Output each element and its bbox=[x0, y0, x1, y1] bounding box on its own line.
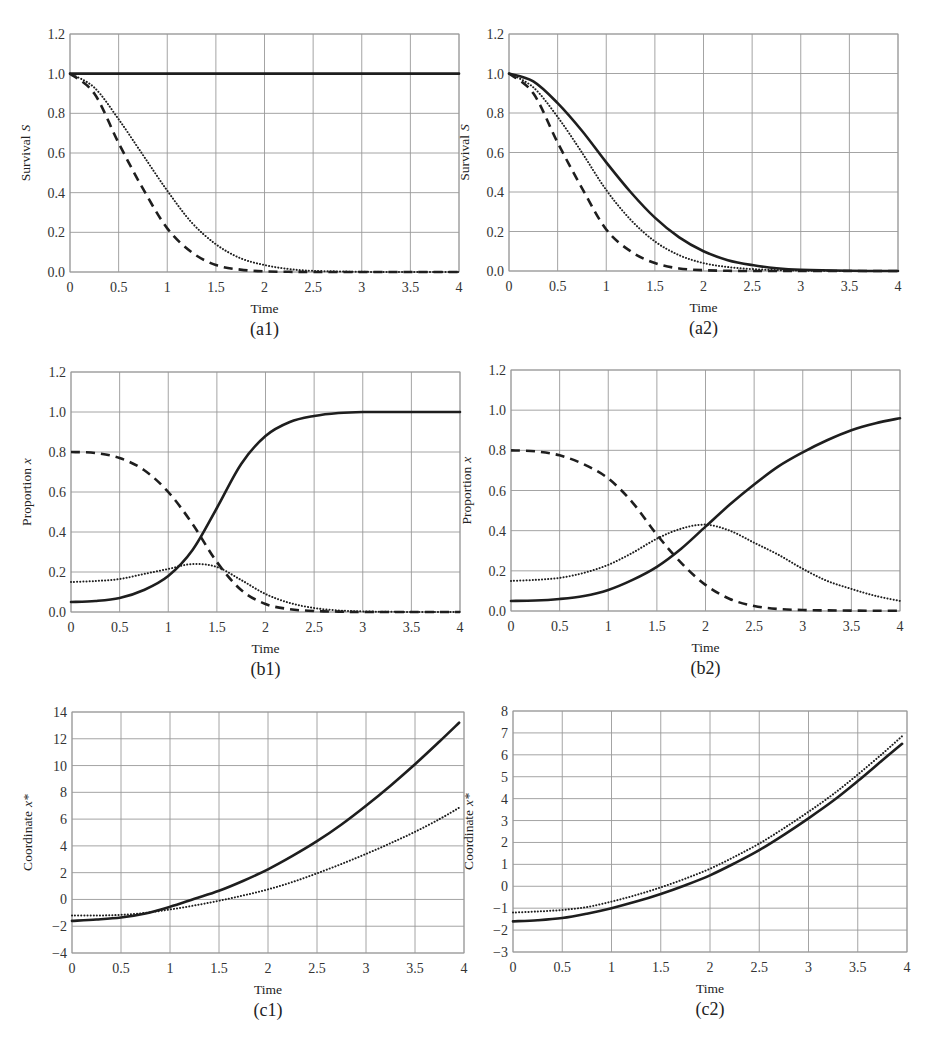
x-tick-label: 2.5 bbox=[308, 961, 326, 976]
y-tick-label: 12 bbox=[53, 732, 67, 747]
y-tick-label: 6 bbox=[501, 748, 508, 763]
x-tick-label: 0.5 bbox=[549, 279, 567, 294]
y-axis-label-variable: x bbox=[459, 457, 474, 464]
x-tick-label: 2 bbox=[700, 279, 707, 294]
y-tick-label: 1.2 bbox=[48, 27, 66, 42]
x-tick-label: 0.5 bbox=[112, 961, 130, 976]
x-tick-label: 2 bbox=[265, 961, 272, 976]
x-tick-label: 3.5 bbox=[849, 960, 867, 975]
x-tick-label: 1 bbox=[603, 279, 610, 294]
chart-c2: 00.511.522.533.54−3−2−1012345678TimeCoor… bbox=[461, 704, 911, 1020]
x-tick-label: 3.5 bbox=[841, 279, 859, 294]
y-tick-label: 0.8 bbox=[48, 106, 66, 121]
x-tick-label: 3 bbox=[805, 960, 812, 975]
figure: 00.511.522.533.540.00.20.40.60.81.01.2Ti… bbox=[0, 0, 931, 1047]
x-tick-label: 3 bbox=[797, 279, 804, 294]
panel-caption: (a1) bbox=[250, 319, 279, 340]
x-tick-label: 3 bbox=[363, 961, 370, 976]
x-tick-label: 3 bbox=[359, 620, 366, 635]
x-tick-label: 0 bbox=[510, 960, 517, 975]
x-tick-label: 4 bbox=[895, 279, 902, 294]
x-tick-label: 1.5 bbox=[210, 961, 228, 976]
y-tick-label: 2 bbox=[60, 866, 67, 881]
y-axis-label-text: Proportion bbox=[19, 468, 34, 526]
y-axis-label-variable: x bbox=[19, 458, 34, 465]
y-tick-label: 0 bbox=[501, 879, 508, 894]
y-axis-label: SurvivalS bbox=[18, 125, 33, 182]
y-tick-label: 1.2 bbox=[489, 363, 507, 378]
y-tick-label: 0.8 bbox=[489, 443, 507, 458]
y-axis-label: Proportionx bbox=[19, 458, 34, 526]
x-tick-label: 4 bbox=[456, 280, 463, 295]
y-tick-label: 6 bbox=[60, 812, 67, 827]
y-axis-label-variable: S bbox=[18, 125, 33, 132]
x-tick-label: 4 bbox=[904, 960, 911, 975]
x-tick-label: 2 bbox=[261, 280, 268, 295]
y-tick-label: −1 bbox=[493, 901, 508, 916]
x-axis-label: Time bbox=[696, 981, 724, 996]
x-tick-label: 1 bbox=[167, 961, 174, 976]
y-tick-label: 0.6 bbox=[49, 485, 67, 500]
y-tick-label: 1.2 bbox=[487, 27, 505, 42]
x-tick-label: 2.5 bbox=[751, 960, 769, 975]
x-tick-label: 1.5 bbox=[648, 619, 666, 634]
y-tick-label: 0.2 bbox=[487, 225, 505, 240]
x-tick-label: 3 bbox=[358, 280, 365, 295]
y-tick-label: 7 bbox=[501, 726, 508, 741]
chart-a2: 00.511.522.533.540.00.20.40.60.81.01.2Ti… bbox=[457, 27, 902, 339]
y-tick-label: 0.6 bbox=[48, 146, 66, 161]
x-tick-label: 1 bbox=[164, 280, 171, 295]
y-tick-label: 0.0 bbox=[489, 604, 507, 619]
y-tick-label: 0.4 bbox=[487, 185, 505, 200]
y-axis-label-variable: S bbox=[457, 124, 472, 131]
x-tick-label: 2.5 bbox=[304, 280, 322, 295]
y-tick-label: 1.2 bbox=[49, 365, 67, 380]
y-tick-label: 0.2 bbox=[48, 225, 66, 240]
y-tick-label: 1.0 bbox=[48, 67, 66, 82]
x-tick-label: 3.5 bbox=[843, 619, 861, 634]
y-tick-label: 0.8 bbox=[49, 445, 67, 460]
y-tick-label: 5 bbox=[501, 770, 508, 785]
y-axis-label-text: Survival bbox=[457, 135, 472, 181]
y-tick-label: 8 bbox=[60, 785, 67, 800]
x-tick-label: 0.5 bbox=[111, 620, 129, 635]
x-tick-label: 3 bbox=[799, 619, 806, 634]
x-tick-label: 0 bbox=[506, 279, 513, 294]
y-tick-label: 0.4 bbox=[489, 524, 507, 539]
y-tick-label: 4 bbox=[501, 792, 508, 807]
y-tick-label: −4 bbox=[52, 946, 67, 961]
x-axis-label: Time bbox=[689, 300, 717, 315]
y-axis-label-text: Coordinate bbox=[20, 811, 35, 871]
y-tick-label: 0.6 bbox=[487, 146, 505, 161]
y-tick-label: 8 bbox=[501, 704, 508, 719]
x-tick-label: 1 bbox=[165, 620, 172, 635]
chart-a1: 00.511.522.533.540.00.20.40.60.81.01.2Ti… bbox=[18, 27, 463, 340]
y-axis-label-text: Survival bbox=[18, 135, 33, 181]
x-tick-label: 2.5 bbox=[743, 279, 761, 294]
y-tick-label: 10 bbox=[53, 759, 67, 774]
y-tick-label: 0.2 bbox=[49, 565, 67, 580]
x-tick-label: 4 bbox=[897, 619, 904, 634]
x-tick-label: 0 bbox=[68, 620, 75, 635]
x-tick-label: 0 bbox=[69, 961, 76, 976]
y-tick-label: 1.0 bbox=[489, 403, 507, 418]
y-axis-label: Proportionx bbox=[459, 457, 474, 525]
y-tick-label: 0.8 bbox=[487, 106, 505, 121]
x-tick-label: 2 bbox=[707, 960, 714, 975]
series-line-solid bbox=[513, 744, 902, 921]
x-tick-label: 4 bbox=[461, 961, 468, 976]
y-tick-label: 1.0 bbox=[487, 67, 505, 82]
y-tick-label: 0.6 bbox=[489, 484, 507, 499]
x-axis-label: Time bbox=[250, 301, 278, 316]
x-tick-label: 3.5 bbox=[403, 620, 421, 635]
y-tick-label: −3 bbox=[493, 945, 508, 960]
x-tick-label: 0 bbox=[508, 619, 515, 634]
x-axis-label: Time bbox=[691, 640, 719, 655]
x-tick-label: 0 bbox=[67, 280, 74, 295]
x-tick-label: 1 bbox=[605, 619, 612, 634]
x-tick-label: 2.5 bbox=[745, 619, 763, 634]
y-axis-label-variable: x* bbox=[20, 794, 35, 808]
y-axis-label: Coordinatex* bbox=[461, 793, 476, 870]
x-tick-label: 1.5 bbox=[652, 960, 670, 975]
y-tick-label: 1 bbox=[501, 857, 508, 872]
